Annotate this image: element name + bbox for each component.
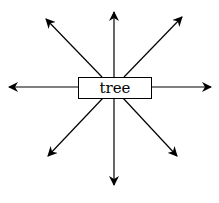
center-node-label: tree: [100, 79, 131, 97]
arrow-up-left-icon: [46, 19, 102, 77]
arrow-diagram: [0, 0, 219, 203]
center-node-box: tree: [78, 77, 152, 99]
arrow-down-left-icon: [48, 98, 103, 156]
arrow-down-right-icon: [123, 98, 177, 156]
arrow-up-right-icon: [124, 17, 182, 77]
